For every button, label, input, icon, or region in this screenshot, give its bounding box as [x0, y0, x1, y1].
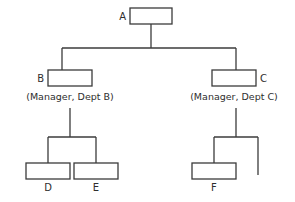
node-a[interactable]: A [119, 8, 172, 24]
node-f-label: F [211, 182, 217, 193]
node-b-box[interactable] [48, 70, 92, 86]
node-f[interactable]: F [192, 163, 236, 193]
node-c-label: C [260, 73, 267, 84]
org-chart-diagram: A B (Manager, Dept B) C (Manager, Dept C… [0, 0, 295, 202]
node-e[interactable]: E [74, 163, 118, 193]
node-b-label: B [37, 73, 44, 84]
node-d-label: D [44, 182, 52, 193]
node-c-caption: (Manager, Dept C) [190, 91, 278, 102]
node-b-caption: (Manager, Dept B) [26, 91, 114, 102]
node-e-label: E [93, 182, 99, 193]
node-b[interactable]: B (Manager, Dept B) [26, 70, 114, 102]
node-c-box[interactable] [212, 70, 256, 86]
diagram-canvas: A B (Manager, Dept B) C (Manager, Dept C… [0, 0, 295, 202]
node-d-box[interactable] [26, 163, 70, 179]
node-e-box[interactable] [74, 163, 118, 179]
node-a-box[interactable] [130, 8, 172, 24]
node-a-label: A [119, 11, 126, 22]
node-f-box[interactable] [192, 163, 236, 179]
node-c[interactable]: C (Manager, Dept C) [190, 70, 278, 102]
node-d[interactable]: D [26, 163, 70, 193]
